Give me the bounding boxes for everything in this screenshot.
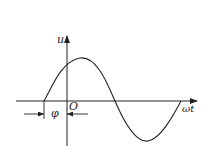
sine-curve (44, 58, 181, 141)
sine-wave-diagram: u O φ ωt (0, 0, 212, 152)
y-axis-label: u (57, 33, 64, 46)
x-axis-label: ωt (182, 103, 195, 114)
origin-label: O (69, 100, 78, 113)
phase-label: φ (51, 107, 59, 120)
